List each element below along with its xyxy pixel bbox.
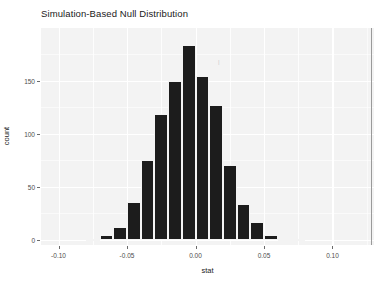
x-tick-label: 0.00 (189, 252, 202, 259)
y-tick-label: 150 (24, 77, 35, 84)
histogram-bar (113, 227, 127, 240)
y-tick-mark (37, 187, 40, 188)
histogram-bar (196, 76, 210, 240)
histogram-bar (86, 239, 100, 241)
gridline-x-major (332, 28, 333, 245)
x-axis-title: stat (41, 266, 374, 275)
histogram-bar (237, 204, 251, 240)
gridline-y-minor (41, 54, 374, 55)
y-tick-label: 100 (24, 130, 35, 137)
y-tick-mark (37, 81, 40, 82)
histogram-bar (168, 81, 182, 240)
x-tick-mark (264, 246, 265, 249)
histogram-bar (223, 165, 237, 240)
plot-panel: | (41, 28, 374, 245)
x-tick-label: 0.05 (258, 252, 271, 259)
x-tick-label: -0.05 (120, 252, 135, 259)
y-axis-title: count (2, 127, 11, 145)
y-tick-mark (37, 134, 40, 135)
x-tick-mark (127, 246, 128, 249)
histogram-bar (250, 222, 264, 240)
histogram-bar (100, 235, 114, 240)
chart-title: Simulation-Based Null Distribution (41, 8, 188, 19)
histogram-bar (264, 235, 278, 240)
x-tick-mark (196, 246, 197, 249)
gridline-x-major (264, 28, 265, 245)
x-tick-mark (59, 246, 60, 249)
histogram-bar (154, 114, 168, 240)
chart-root: Simulation-Based Null Distribution | 050… (0, 0, 391, 294)
histogram-bar (141, 160, 155, 240)
histogram-bar (127, 202, 141, 240)
x-tick-mark (332, 246, 333, 249)
stray-tick-artifact: | (218, 59, 220, 65)
histogram-bar (209, 105, 223, 240)
x-tick-label: -0.10 (51, 252, 66, 259)
y-tick-label: 0 (31, 237, 35, 244)
gridline-x-major (59, 28, 60, 245)
gridline-x-minor (298, 28, 299, 245)
histogram-bar (182, 45, 196, 240)
gridline-x-minor (93, 28, 94, 245)
observed-statistic-line (371, 28, 372, 245)
y-tick-mark (37, 240, 40, 241)
x-tick-label: 0.10 (326, 252, 339, 259)
histogram-bar (291, 239, 305, 241)
histogram-bar (278, 239, 292, 241)
gridline-x-minor (367, 28, 368, 245)
y-tick-label: 50 (28, 183, 35, 190)
